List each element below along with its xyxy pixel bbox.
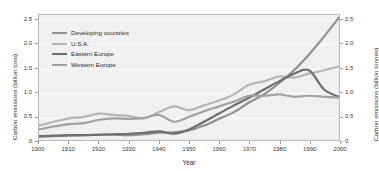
x-tick-mark — [219, 141, 220, 144]
x-tick-mark — [249, 141, 250, 144]
legend-item[interactable]: Western Europe — [52, 60, 129, 71]
x-tick-label: 1930 — [116, 146, 142, 152]
y-tick-label-right: 1.0 — [345, 89, 363, 95]
y-tick-label-right: 0 — [345, 138, 363, 144]
y-tick-label-right: 1.5 — [345, 65, 363, 71]
x-tick-mark — [98, 141, 99, 144]
legend-label: Western Europe — [71, 62, 116, 68]
x-tick-mark — [159, 141, 160, 144]
x-tick-label: 1910 — [55, 146, 81, 152]
x-tick-label: 1980 — [267, 146, 293, 152]
y-tick-label-left: 1.5 — [14, 65, 32, 71]
legend-item[interactable]: Developing countries — [52, 28, 129, 39]
y-tick-label-left: 1.0 — [14, 89, 32, 95]
x-tick-mark — [280, 141, 281, 144]
legend-swatch-icon — [52, 32, 67, 34]
legend-label: Eastern Europe — [71, 51, 114, 57]
y-tick-mark-right — [340, 117, 343, 118]
y-tick-label-right: 2.0 — [345, 40, 363, 46]
y-tick-mark-right — [340, 43, 343, 44]
y-tick-label-left: 0 — [14, 138, 32, 144]
y-tick-label-right: 2.5 — [345, 16, 363, 22]
x-tick-label: 1970 — [236, 146, 262, 152]
x-tick-label: 1950 — [176, 146, 202, 152]
y-tick-label-left: 2.5 — [14, 16, 32, 22]
legend: Developing countriesU.S.A.Eastern Europe… — [52, 28, 129, 70]
x-tick-mark — [129, 141, 130, 144]
legend-item[interactable]: Eastern Europe — [52, 49, 129, 60]
legend-label: Developing countries — [71, 30, 129, 36]
x-tick-mark — [68, 141, 69, 144]
y-tick-mark-right — [340, 19, 343, 20]
x-tick-mark — [340, 141, 341, 144]
line-series — [39, 94, 339, 129]
legend-swatch-icon — [52, 64, 67, 66]
y-tick-label-right: 0.5 — [345, 113, 363, 119]
x-tick-mark — [189, 141, 190, 144]
legend-item[interactable]: U.S.A. — [52, 39, 129, 50]
y-tick-mark-right — [340, 92, 343, 93]
x-tick-mark — [310, 141, 311, 144]
x-tick-mark — [38, 141, 39, 144]
y-tick-label-left: 0.5 — [14, 113, 32, 119]
y-tick-mark-right — [340, 68, 343, 69]
legend-label: U.S.A. — [71, 41, 89, 47]
line-series — [39, 69, 339, 136]
x-axis-label: Year — [0, 159, 378, 166]
x-tick-label: 1990 — [297, 146, 323, 152]
x-tick-label: 2000 — [327, 146, 353, 152]
x-tick-label: 1960 — [206, 146, 232, 152]
x-tick-label: 1900 — [25, 146, 51, 152]
y-tick-label-left: 2.0 — [14, 40, 32, 46]
x-tick-label: 1920 — [85, 146, 111, 152]
legend-swatch-icon — [52, 43, 67, 45]
legend-swatch-icon — [52, 53, 67, 55]
x-tick-label: 1940 — [146, 146, 172, 152]
y-axis-label-right: Carbon emissions (billion tonnes) — [372, 48, 379, 141]
